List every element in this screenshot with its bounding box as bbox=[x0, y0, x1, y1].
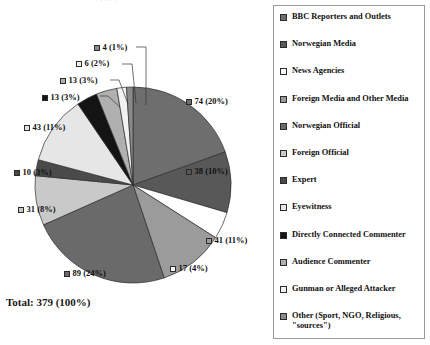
legend-item-label: Audience Commenter bbox=[292, 257, 370, 267]
pie-data-label: 31 (8%) bbox=[18, 204, 56, 214]
data-label-swatch-icon bbox=[14, 170, 20, 176]
data-label-swatch-icon bbox=[60, 78, 66, 84]
data-label-swatch-icon bbox=[206, 238, 212, 244]
pie-data-label: 89 (24%) bbox=[64, 268, 106, 278]
pie-data-label: 41 (11%) bbox=[206, 235, 247, 245]
legend-swatch-icon bbox=[280, 177, 287, 184]
data-label-text: 13 (3%) bbox=[51, 92, 80, 102]
legend-item[interactable]: Foreign Media and Other Media bbox=[280, 94, 420, 120]
pie-data-label: 13 (3%) bbox=[60, 75, 98, 85]
legend-item[interactable]: Norwegian Official bbox=[280, 121, 420, 147]
legend: BBC Reporters and OutletsNorwegian Media… bbox=[273, 5, 425, 339]
legend-item-label: Expert bbox=[292, 175, 317, 185]
legend-item[interactable]: Directly Connected Commenter bbox=[280, 230, 420, 256]
legend-swatch-icon bbox=[280, 313, 287, 320]
legend-item-label: Gunman or Alleged Attacker bbox=[292, 284, 395, 294]
pie-data-label: 13 (3%) bbox=[42, 92, 80, 102]
legend-item-label: Other (Sport, NGO, Religious, "sources") bbox=[292, 311, 420, 331]
data-label-text: 31 (8%) bbox=[27, 204, 56, 214]
legend-swatch-icon bbox=[280, 204, 287, 211]
legend-item[interactable]: Eyewitness bbox=[280, 202, 420, 228]
legend-swatch-icon bbox=[280, 68, 287, 75]
data-label-swatch-icon bbox=[186, 99, 192, 105]
legend-item-label: BBC Reporters and Outlets bbox=[292, 12, 391, 22]
data-label-text: 74 (20%) bbox=[195, 96, 228, 106]
data-label-text: 43 (11%) bbox=[33, 122, 66, 132]
data-label-swatch-icon bbox=[186, 169, 192, 175]
legend-item[interactable]: News Agencies bbox=[280, 66, 420, 92]
legend-item-label: Norwegian Official bbox=[292, 121, 360, 131]
data-label-text: 17 (4%) bbox=[179, 263, 208, 273]
legend-swatch-icon bbox=[280, 96, 287, 103]
legend-swatch-icon bbox=[280, 150, 287, 157]
data-label-text: 10 (3%) bbox=[23, 167, 52, 177]
legend-item[interactable]: Foreign Official bbox=[280, 148, 420, 174]
pie-data-label: 4 (1%) bbox=[94, 42, 127, 52]
data-label-swatch-icon bbox=[76, 61, 82, 67]
data-label-text: 4 (1%) bbox=[103, 42, 128, 52]
legend-item[interactable]: Audience Commenter bbox=[280, 257, 420, 283]
data-label-text: 41 (11%) bbox=[215, 235, 248, 245]
pie-data-label: 6 (2%) bbox=[76, 58, 109, 68]
legend-item-label: Foreign Media and Other Media bbox=[292, 94, 408, 104]
legend-swatch-icon bbox=[280, 259, 287, 266]
data-label-text: 38 (10%) bbox=[195, 166, 228, 176]
data-label-text: 89 (24%) bbox=[73, 268, 106, 278]
pie-chart-area: 74 (20%)38 (10%)17 (4%)41 (11%)89 (24%)3… bbox=[0, 0, 272, 345]
data-label-text: 6 (2%) bbox=[85, 58, 110, 68]
data-label-swatch-icon bbox=[42, 95, 48, 101]
legend-item[interactable]: Norwegian Media bbox=[280, 39, 420, 65]
pie-data-label: 10 (3%) bbox=[14, 167, 52, 177]
legend-item-label: Directly Connected Commenter bbox=[292, 230, 406, 240]
legend-item-label: Eyewitness bbox=[292, 202, 332, 212]
legend-item-label: Foreign Official bbox=[292, 148, 349, 158]
pie-slices bbox=[35, 87, 231, 283]
data-label-text: 13 (3%) bbox=[69, 75, 98, 85]
legend-item[interactable]: BBC Reporters and Outlets bbox=[280, 12, 420, 38]
data-label-swatch-icon bbox=[94, 45, 100, 51]
pie-data-label: 43 (11%) bbox=[24, 122, 65, 132]
legend-swatch-icon bbox=[280, 123, 287, 130]
legend-item[interactable]: Expert bbox=[280, 175, 420, 201]
legend-swatch-icon bbox=[280, 232, 287, 239]
pie-data-label: 17 (4%) bbox=[170, 263, 208, 273]
legend-item[interactable]: Other (Sport, NGO, Religious, "sources") bbox=[280, 311, 420, 337]
data-label-swatch-icon bbox=[24, 125, 30, 131]
data-label-swatch-icon bbox=[170, 266, 176, 272]
legend-swatch-icon bbox=[280, 14, 287, 21]
legend-swatch-icon bbox=[280, 41, 287, 48]
data-label-swatch-icon bbox=[18, 207, 24, 213]
data-label-swatch-icon bbox=[64, 271, 70, 277]
legend-swatch-icon bbox=[280, 286, 287, 293]
pie-data-label: 38 (10%) bbox=[186, 166, 228, 176]
legend-item[interactable]: Gunman or Alleged Attacker bbox=[280, 284, 420, 310]
legend-item-label: News Agencies bbox=[292, 66, 344, 76]
total-text: Total: 379 (100%) bbox=[6, 296, 91, 308]
pie-data-label: 74 (20%) bbox=[186, 96, 228, 106]
legend-item-label: Norwegian Media bbox=[292, 39, 356, 49]
